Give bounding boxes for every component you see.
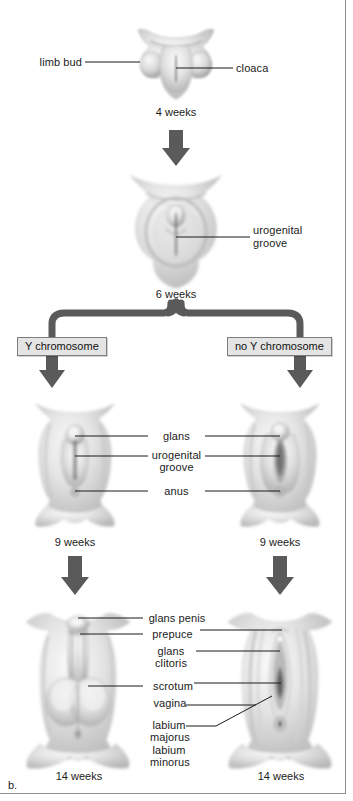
label-glans: glans	[148, 430, 205, 443]
arrow-female-9w-to-14w	[266, 556, 294, 595]
label-glans-clitoris-line2: clitoris	[146, 657, 196, 670]
figure-panel: limb bud cloaca 4 weeks urogenital groov…	[0, 0, 353, 801]
label-labium-minorus-line1: labium	[146, 744, 192, 757]
illustration-4-weeks	[138, 29, 214, 99]
label-labium-minorus-line2: minorus	[142, 756, 198, 769]
label-glans-clitoris-line1: glans	[146, 645, 196, 658]
stage-age-6-weeks: 6 weeks	[146, 288, 206, 300]
label-urogenital-groove-line2: groove	[253, 237, 287, 250]
frame-bottom-rule	[0, 793, 346, 794]
illustration-14-weeks-male	[26, 613, 130, 768]
label-prepuce: prepuce	[145, 628, 200, 641]
label-limb-bud: limb bud	[12, 56, 82, 69]
frame-right-rule	[345, 0, 346, 794]
illustration-9-weeks-female	[241, 404, 320, 527]
stage-age-9-weeks-male: 9 weeks	[45, 536, 105, 548]
illustration-9-weeks-male	[36, 404, 115, 527]
arrow-4w-to-6w	[162, 130, 190, 166]
illustration-6-weeks	[131, 176, 221, 288]
label-labium-majorus-line2: majorus	[142, 731, 198, 744]
label-urogenital-groove-9w-line1: urogenital	[137, 449, 216, 462]
branch-box-no-y-chromosome[interactable]: no Y chromosome	[227, 337, 332, 356]
label-cloaca: cloaca	[236, 62, 268, 75]
label-vagina: vagina	[146, 697, 194, 710]
label-urogenital-groove-line1: urogenital	[253, 224, 302, 237]
branch-box-y-chromosome[interactable]: Y chromosome	[17, 337, 107, 356]
label-scrotum: scrotum	[145, 680, 201, 693]
panel-label-b: b.	[8, 779, 17, 791]
label-anus: anus	[148, 485, 205, 498]
stage-age-14-weeks-male: 14 weeks	[48, 770, 110, 782]
stage-age-14-weeks-female: 14 weeks	[250, 770, 312, 782]
arrow-male-9w-to-14w	[61, 556, 89, 595]
illustration-14-weeks-female	[228, 613, 332, 768]
label-glans-penis: glans penis	[145, 612, 209, 625]
stage-age-9-weeks-female: 9 weeks	[250, 536, 310, 548]
label-labium-majorus-line1: labium	[146, 719, 192, 732]
stage-age-4-weeks: 4 weeks	[146, 106, 206, 118]
label-urogenital-groove-9w-line2: groove	[137, 461, 216, 474]
